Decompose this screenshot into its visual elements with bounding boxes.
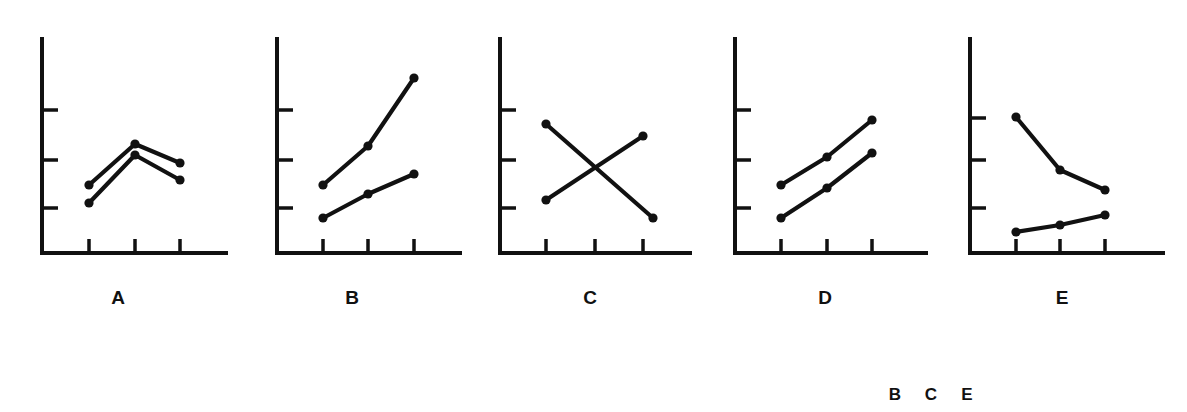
panel-label-b: B — [332, 288, 372, 308]
panel-label-e: E — [1042, 288, 1082, 308]
data-point-C-1-1 — [638, 131, 647, 140]
data-point-A-1-2 — [175, 175, 184, 184]
footer-letter-b: B — [883, 386, 907, 404]
data-point-E-0-0 — [1011, 112, 1020, 121]
data-point-E-0-1 — [1055, 165, 1064, 174]
data-point-B-1-0 — [318, 213, 327, 222]
data-point-A-0-1 — [130, 139, 139, 148]
data-point-B-1-2 — [409, 169, 418, 178]
data-point-C-1-0 — [541, 195, 550, 204]
data-point-C-0-1 — [648, 213, 657, 222]
data-point-B-0-2 — [409, 73, 418, 82]
data-point-D-1-2 — [867, 148, 876, 157]
chart-panel-B — [275, 37, 462, 253]
panels-group — [40, 37, 1165, 253]
data-point-D-1-1 — [822, 183, 831, 192]
data-point-D-1-0 — [776, 213, 785, 222]
panel-label-d: D — [805, 288, 845, 308]
data-point-A-0-2 — [175, 158, 184, 167]
data-point-D-0-1 — [822, 152, 831, 161]
panel-label-c: C — [570, 288, 610, 308]
series-line-B-0 — [323, 78, 414, 185]
series-line-E-0 — [1016, 117, 1105, 190]
data-point-E-1-0 — [1011, 227, 1020, 236]
data-point-E-1-1 — [1055, 220, 1064, 229]
data-point-A-0-0 — [84, 180, 93, 189]
chart-panel-D — [733, 37, 928, 253]
figure-root: ABCDE BCE — [0, 0, 1187, 412]
data-point-B-1-1 — [363, 189, 372, 198]
panel-label-a: A — [98, 288, 138, 308]
data-point-E-1-2 — [1100, 210, 1109, 219]
chart-panel-C — [498, 37, 692, 253]
footer-letter-c: C — [919, 386, 943, 404]
data-point-E-0-2 — [1100, 185, 1109, 194]
data-point-B-0-1 — [363, 141, 372, 150]
data-point-C-0-0 — [541, 119, 550, 128]
data-point-A-1-0 — [84, 198, 93, 207]
chart-panel-E — [968, 37, 1165, 253]
series-line-A-1 — [89, 155, 180, 203]
footer-letter-e: E — [955, 386, 979, 404]
chart-panel-A — [40, 37, 228, 253]
data-point-D-0-0 — [776, 180, 785, 189]
data-point-B-0-0 — [318, 180, 327, 189]
series-line-A-0 — [89, 144, 180, 185]
data-point-D-0-2 — [867, 115, 876, 124]
charts-canvas — [0, 0, 1187, 412]
series-line-C-1 — [546, 136, 643, 200]
data-point-A-1-1 — [130, 150, 139, 159]
